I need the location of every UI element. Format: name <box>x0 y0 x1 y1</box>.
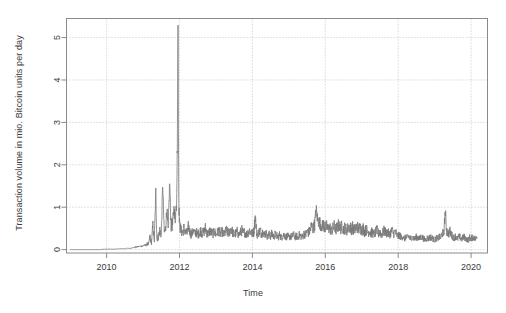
x-axis-ticks: 201020122014201620182020 <box>97 253 482 272</box>
y-tick-label: 4 <box>53 77 63 82</box>
x-tick-label: 2010 <box>97 262 117 272</box>
x-tick-label: 2018 <box>388 262 408 272</box>
transaction-volume-line-chart: 012345 201020122014201620182020 <box>0 0 506 313</box>
x-tick-label: 2012 <box>169 262 189 272</box>
x-tick-label: 2016 <box>315 262 335 272</box>
y-tick-label: 3 <box>53 120 63 125</box>
plot-border <box>67 19 488 254</box>
y-tick-label: 2 <box>53 162 63 167</box>
series-line-bitcoin-volume <box>70 25 477 250</box>
grid-lines <box>67 19 488 254</box>
x-tick-label: 2020 <box>461 262 481 272</box>
y-tick-label: 0 <box>53 247 63 252</box>
y-tick-label: 1 <box>53 205 63 210</box>
y-axis-title: Transaction volume in mio. Bitcoin units… <box>14 13 24 253</box>
y-tick-label: 5 <box>53 35 63 40</box>
chart-figure: 012345 201020122014201620182020 Transact… <box>0 0 506 313</box>
x-axis-title: Time <box>0 288 506 298</box>
data-series-layer <box>70 25 477 250</box>
y-axis-ticks: 012345 <box>53 35 67 252</box>
x-tick-label: 2014 <box>242 262 262 272</box>
